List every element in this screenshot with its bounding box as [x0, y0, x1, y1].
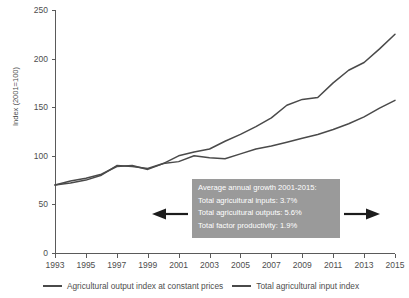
- x-tick-mark: [179, 254, 180, 258]
- x-tick-mark: [55, 254, 56, 258]
- y-tick-label: 150: [22, 103, 48, 111]
- x-tick-label: 1995: [69, 260, 103, 270]
- annotation-line-inputs: Total agricultural inputs: 3.7%: [198, 195, 340, 208]
- x-tick-mark: [395, 254, 396, 258]
- legend-item-input: Total agricultural input index: [232, 281, 359, 291]
- y-axis-line: [55, 10, 56, 253]
- x-tick-label: 1993: [38, 260, 72, 270]
- legend-label-output: Agricultural output index at constant pr…: [67, 281, 223, 291]
- x-tick-mark: [86, 254, 87, 258]
- y-tick-label: 0: [22, 249, 48, 257]
- x-tick-label: 1999: [131, 260, 165, 270]
- y-tick-label: 100: [22, 152, 48, 160]
- y-tick-label: 50: [22, 200, 48, 208]
- annotation-box: Average annual growth 2001-2015: Total a…: [192, 179, 340, 238]
- x-tick-mark: [271, 254, 272, 258]
- x-tick-mark: [302, 254, 303, 258]
- series-line-1: [55, 100, 395, 185]
- annotation-line-outputs: Total agricultural outputs: 5.6%: [198, 207, 340, 220]
- x-tick-mark: [240, 254, 241, 258]
- x-tick-mark: [210, 254, 211, 258]
- x-tick-label: 2015: [378, 260, 409, 270]
- annotation-line-tfp: Total factor productivity: 1.9%: [198, 220, 340, 233]
- x-tick-label: 2003: [193, 260, 227, 270]
- x-tick-mark: [148, 254, 149, 258]
- x-axis-line: [55, 253, 395, 254]
- x-tick-label: 2001: [162, 260, 196, 270]
- legend-item-output: Agricultural output index at constant pr…: [43, 281, 223, 291]
- series-line-0: [55, 34, 395, 185]
- x-tick-label: 1997: [100, 260, 134, 270]
- x-tick-label: 2007: [254, 260, 288, 270]
- x-tick-label: 2009: [285, 260, 319, 270]
- legend-swatch-output-icon: [43, 285, 62, 287]
- x-tick-label: 2005: [223, 260, 257, 270]
- x-tick-mark: [117, 254, 118, 258]
- x-tick-mark: [333, 254, 334, 258]
- y-tick-label: 250: [22, 6, 48, 14]
- y-tick-label: 200: [22, 55, 48, 63]
- x-tick-label: 2011: [316, 260, 350, 270]
- chart-legend: Agricultural output index at constant pr…: [0, 281, 402, 291]
- x-tick-label: 2013: [347, 260, 381, 270]
- y-axis-label: Index (2001=100): [11, 52, 20, 142]
- annotation-title: Average annual growth 2001-2015:: [198, 182, 340, 195]
- x-tick-mark: [364, 254, 365, 258]
- legend-swatch-input-icon: [232, 285, 251, 287]
- legend-label-input: Total agricultural input index: [256, 281, 359, 291]
